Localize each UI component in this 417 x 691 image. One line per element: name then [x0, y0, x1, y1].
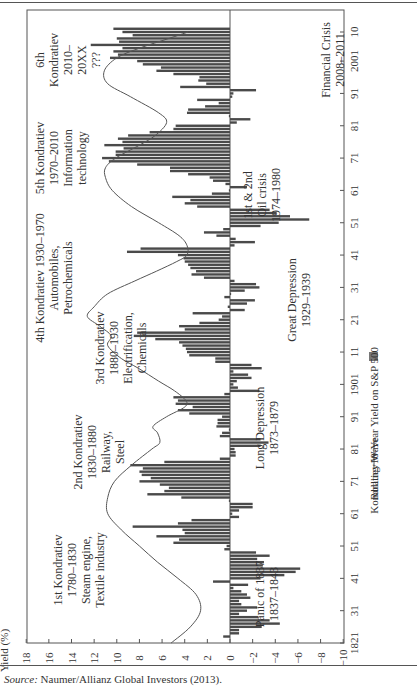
annotation-text: 2010– — [61, 44, 75, 75]
yield-bar — [218, 422, 230, 424]
yield-bar — [122, 141, 230, 143]
yield-bar — [189, 354, 230, 356]
yield-bar — [229, 500, 230, 502]
yield-bar — [179, 538, 230, 540]
yield-bar — [230, 377, 252, 379]
yield-bar — [225, 183, 230, 185]
yield-bar — [192, 519, 230, 521]
yield-tick-label: −2 — [247, 652, 259, 664]
yield-bar — [179, 341, 230, 343]
annotation-text: Kondratiev — [47, 33, 61, 87]
annotation-text: Information — [61, 129, 75, 186]
yield-bar — [230, 629, 239, 631]
yield-bar — [116, 154, 230, 156]
yield-bar — [196, 270, 230, 272]
yield-bar — [205, 105, 230, 107]
yield-bar — [220, 435, 230, 437]
yield-bar — [102, 157, 230, 159]
source-prefix: Source: — [4, 673, 38, 685]
yield-bar — [193, 406, 230, 408]
annotation-text: Petrochemicals — [61, 241, 75, 315]
yield-bar — [229, 428, 230, 430]
yield-bar — [142, 474, 230, 476]
annotation-text: 1873–1879 — [267, 401, 281, 455]
annotation-text: Panic of 1837 — [253, 561, 267, 628]
source-note: Source: Naumer/Allianz Global Investors … — [4, 673, 222, 685]
yield-bar — [186, 348, 230, 350]
yield-bar — [230, 383, 233, 385]
yield-bar — [230, 380, 237, 382]
yield-bar — [212, 192, 230, 194]
yield-bar — [228, 306, 230, 308]
yield-bar — [230, 238, 236, 240]
yield-bar — [222, 432, 230, 434]
yield-bar — [192, 273, 230, 275]
yield-bar — [230, 593, 247, 595]
year-tick-label: 71 — [348, 153, 360, 164]
yield-bar — [230, 600, 239, 602]
yield-bar — [230, 280, 235, 282]
yield-bar — [219, 102, 230, 104]
yield-bar — [190, 199, 230, 201]
yield-bar — [169, 487, 230, 489]
kondratiev-chart: 181614121086420−2−4−6−8−10Yield (%)18213… — [0, 0, 417, 691]
year-tick-label: 41 — [348, 250, 360, 261]
yield-bar — [230, 241, 255, 243]
yield-bar — [117, 37, 230, 39]
yield-bar — [227, 545, 230, 547]
yield-bar — [127, 251, 230, 253]
yield-bar — [188, 173, 230, 175]
yield-bar — [185, 260, 230, 262]
yield-bar — [133, 525, 230, 527]
yield-bar — [230, 597, 250, 599]
yield-bar — [187, 112, 230, 114]
yield-bar — [230, 364, 252, 366]
yield-bar — [230, 370, 233, 372]
annotation-text: 5th Kondratiev — [33, 122, 47, 194]
yield-bar — [197, 99, 230, 101]
yield-bar — [230, 89, 256, 91]
yield-bar — [119, 40, 230, 42]
annotation-text: Chemicals — [135, 322, 149, 373]
source-text: Naumer/Allianz Global Investors (2013). — [38, 673, 222, 685]
yield-bar — [230, 448, 235, 450]
yield-bar — [130, 464, 230, 466]
yield-bar — [230, 118, 250, 120]
yield-bar — [170, 167, 230, 169]
yield-bar — [164, 490, 230, 492]
annotation-text: technology — [75, 131, 89, 184]
yield-tick-label: 2 — [201, 655, 213, 661]
year-tick-label: 71 — [348, 476, 360, 487]
yield-bar — [230, 558, 257, 560]
yield-bar — [161, 66, 230, 68]
year-tick-label: 81 — [348, 444, 360, 455]
yield-bar — [230, 289, 245, 291]
yield-bar — [188, 108, 230, 110]
yield-bar — [184, 257, 230, 259]
year-tick-label: 11 — [348, 347, 360, 358]
annotation-text: 1970–2010 — [47, 131, 61, 185]
yield-bar — [139, 480, 230, 482]
year-tick-label: 10 — [348, 26, 360, 38]
yield-tick-label: 8 — [133, 655, 145, 661]
yield-bar — [230, 512, 232, 514]
year-tick-label: 51 — [348, 217, 360, 228]
yield-bar — [230, 293, 231, 295]
annotation-text: Steam engine, — [79, 536, 93, 604]
yield-bar — [215, 357, 230, 359]
yield-bar — [185, 328, 230, 330]
annotation-text: 1780–1830 — [65, 543, 79, 597]
yield-bar — [128, 134, 230, 136]
yield-bar — [164, 461, 230, 463]
yield-bar — [230, 244, 235, 246]
yield-bar — [182, 529, 230, 531]
yield-bar — [222, 315, 230, 317]
yield-bar — [170, 170, 230, 172]
annotation-text: ??? — [89, 52, 103, 68]
yield-bar — [141, 247, 230, 249]
yield-bar — [216, 234, 230, 236]
chart-figure: 181614121086420−2−4−6−8−10Yield (%)18213… — [0, 0, 417, 691]
yield-bar — [229, 115, 230, 117]
yield-bar — [110, 57, 230, 59]
yield-bar — [230, 587, 233, 589]
